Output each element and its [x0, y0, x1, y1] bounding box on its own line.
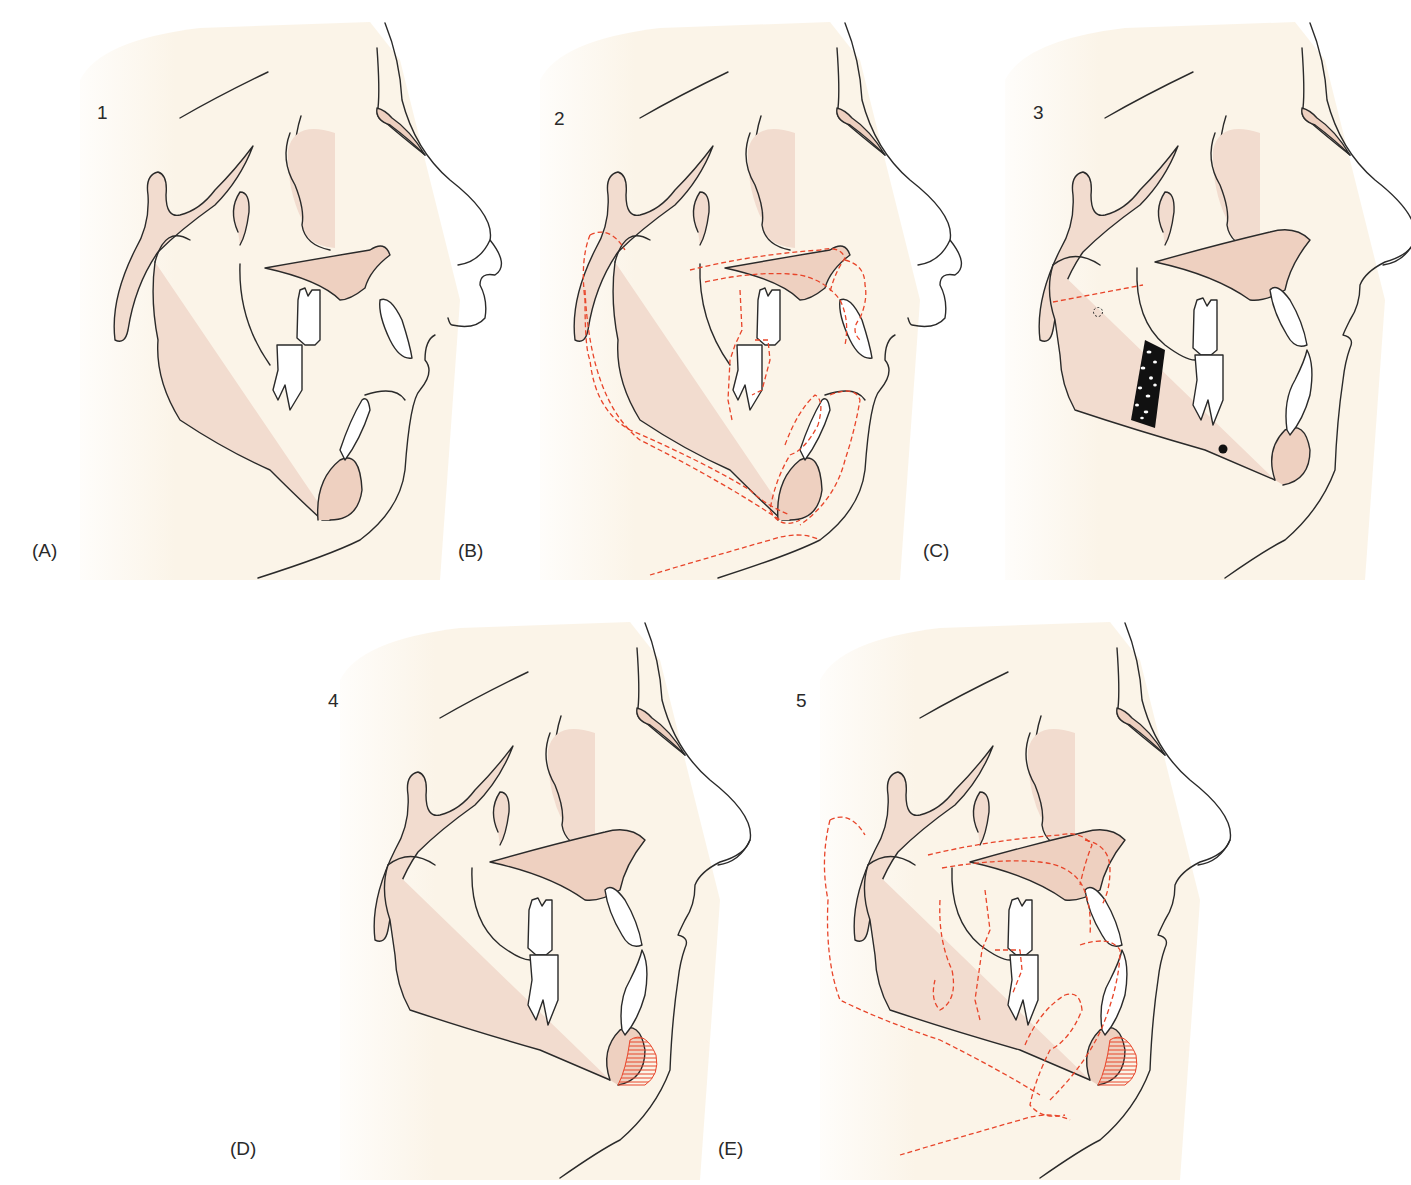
- panel-a: 1 (A): [40, 0, 480, 580]
- panel-letter-a: (A): [32, 540, 57, 562]
- panel-number-1: 1: [97, 102, 108, 124]
- panel-letter-c: (C): [923, 540, 949, 562]
- panel-number-3: 3: [1033, 102, 1044, 124]
- cephalometric-tracing-a: [40, 0, 480, 580]
- panel-c: 3 (C): [965, 0, 1405, 580]
- panel-number-4: 4: [328, 690, 339, 712]
- panel-e: 5 (E): [780, 600, 1220, 1160]
- cephalometric-tracing-b: [500, 0, 940, 580]
- panel-number-2: 2: [554, 108, 565, 130]
- panel-letter-d: (D): [230, 1138, 256, 1160]
- panel-b: 2 (B): [500, 0, 940, 580]
- panel-letter-e: (E): [718, 1138, 743, 1160]
- figure-caption: [0, 1172, 1411, 1185]
- cephalometric-tracing-c: [965, 0, 1405, 580]
- panel-letter-b: (B): [458, 540, 483, 562]
- panel-d: 4 (D): [300, 600, 740, 1160]
- cephalometric-tracing-d: [300, 600, 740, 1160]
- cephalometric-tracing-e: [780, 600, 1220, 1160]
- panel-number-5: 5: [796, 690, 807, 712]
